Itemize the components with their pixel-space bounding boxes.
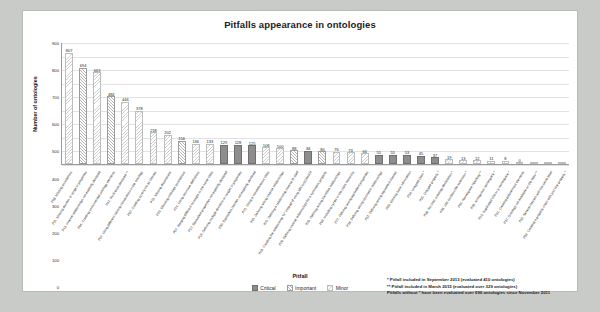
bar-slot[interactable] <box>555 43 569 164</box>
bar[interactable]: 19 <box>445 159 453 164</box>
bar-value-label: 125 <box>249 141 256 146</box>
bar-slot[interactable]: 8 <box>498 43 512 164</box>
bar[interactable]: 694 <box>79 68 87 164</box>
bar[interactable]: 129 <box>220 145 228 164</box>
bar[interactable]: 88 <box>290 150 298 164</box>
plot-area: 0100200300400500600700800900 80769466348… <box>61 43 569 165</box>
bar-value-label: 37 <box>433 153 437 158</box>
legend-item-minor[interactable]: Minor <box>327 285 348 291</box>
bar-slot[interactable]: 128 <box>231 43 245 164</box>
footnotes: * Pitfall included in September 2013 (ev… <box>387 277 579 297</box>
bar[interactable]: 84 <box>304 151 312 164</box>
bar-slot[interactable]: 136 <box>189 43 203 164</box>
bar-slot[interactable]: 807 <box>62 43 76 164</box>
legend-item-critical[interactable]: Critical <box>252 285 276 291</box>
bar[interactable]: 8 <box>502 161 510 164</box>
footnote: Pitfalls without * have been evaluated o… <box>387 290 579 297</box>
bar[interactable]: 218 <box>150 132 158 164</box>
y-axis-title-text: Number of ontologies <box>32 76 38 132</box>
bar[interactable] <box>544 162 552 164</box>
bar-value-label: 53 <box>405 150 409 155</box>
bar[interactable]: 53 <box>403 155 411 164</box>
bar-slot[interactable]: 13 <box>456 43 470 164</box>
legend-label: Critical <box>260 285 275 291</box>
bar[interactable]: 378 <box>135 111 143 164</box>
bar-slot[interactable]: 12 <box>470 43 484 164</box>
bar-value-label: 133 <box>206 139 213 144</box>
bar-slot[interactable]: 100 <box>273 43 287 164</box>
footnote: ** Pitfall included in March 2015 (evalu… <box>387 284 579 291</box>
bar-slot[interactable]: 378 <box>132 43 146 164</box>
bar[interactable]: 66 <box>361 153 369 164</box>
chart-frame: Pitfalls appearance in ontologies Number… <box>22 10 578 292</box>
bar[interactable] <box>558 162 566 164</box>
bar-value-label: 11 <box>489 156 493 161</box>
bar-slot[interactable]: 53 <box>400 43 414 164</box>
bar-slot[interactable]: 694 <box>76 43 90 164</box>
bar[interactable]: 156 <box>178 141 186 164</box>
bar-value-label: 88 <box>292 146 296 151</box>
bar-slot[interactable] <box>527 43 541 164</box>
x-axis-tick-label-text: P03. Creating the relationship "is" inst… <box>258 170 313 255</box>
bar-slot[interactable]: 80 <box>315 43 329 164</box>
bar[interactable]: 202 <box>164 135 172 164</box>
bar-slot[interactable]: 218 <box>146 43 160 164</box>
bar[interactable] <box>530 162 538 164</box>
bar[interactable]: 55 <box>375 155 383 164</box>
bar[interactable]: 663 <box>93 72 101 164</box>
bar[interactable]: 73 <box>347 152 355 164</box>
footnote: * Pitfall included in September 2013 (ev… <box>387 277 579 284</box>
bar[interactable]: 0 <box>516 162 524 164</box>
bar-slot[interactable]: 76 <box>329 43 343 164</box>
bar-slot[interactable]: 108 <box>259 43 273 164</box>
bar-slot[interactable]: 663 <box>90 43 104 164</box>
bar[interactable]: 128 <box>234 145 242 164</box>
bar[interactable]: 807 <box>65 53 73 164</box>
bar[interactable]: 484 <box>107 96 115 164</box>
bar-value-label: 66 <box>362 149 366 154</box>
bar-slot[interactable]: 129 <box>217 43 231 164</box>
bar[interactable]: 446 <box>121 102 129 164</box>
bar[interactable]: 125 <box>248 145 256 164</box>
bar-slot[interactable]: 202 <box>161 43 175 164</box>
y-axis-tick: 700 <box>52 95 59 100</box>
bar-slot[interactable]: 45 <box>414 43 428 164</box>
x-axis-tick-label-text: P09. Missing basic information <box>385 170 412 210</box>
bar[interactable]: 13 <box>459 160 467 164</box>
bar[interactable]: 108 <box>262 147 270 164</box>
bar-slot[interactable]: 484 <box>104 43 118 164</box>
bar[interactable]: 100 <box>276 148 284 164</box>
bar[interactable]: 55 <box>389 155 397 164</box>
bar-slot[interactable]: 19 <box>442 43 456 164</box>
bar[interactable]: 80 <box>318 151 326 164</box>
legend-label: Important <box>295 285 316 291</box>
bar-slot[interactable]: 156 <box>175 43 189 164</box>
bar-slot[interactable]: 73 <box>344 43 358 164</box>
bar-value-label: 694 <box>80 63 87 68</box>
bar[interactable]: 76 <box>333 152 341 164</box>
bar[interactable]: 133 <box>206 144 214 164</box>
bar[interactable]: 45 <box>417 156 425 164</box>
bar-slot[interactable]: 66 <box>358 43 372 164</box>
bar-slot[interactable]: 0 <box>513 43 527 164</box>
bar-slot[interactable]: 84 <box>301 43 315 164</box>
bar-slot[interactable] <box>541 43 555 164</box>
bar[interactable]: 136 <box>192 144 200 164</box>
bar[interactable]: 12 <box>473 160 481 164</box>
x-axis-category-labels: P08. Missing annotationsP11. Missing dom… <box>61 167 569 271</box>
bar[interactable]: 11 <box>487 161 495 164</box>
bar-slot[interactable]: 125 <box>245 43 259 164</box>
bar-value-label: 136 <box>192 139 199 144</box>
bar-slot[interactable]: 55 <box>372 43 386 164</box>
bar-slot[interactable]: 55 <box>386 43 400 164</box>
bar-slot[interactable]: 37 <box>428 43 442 164</box>
bar[interactable]: 37 <box>431 157 439 164</box>
bar-value-label: 663 <box>94 68 101 73</box>
bar-value-label: 128 <box>235 140 242 145</box>
bar-slot[interactable]: 133 <box>203 43 217 164</box>
bar-slot[interactable]: 446 <box>118 43 132 164</box>
bar-slot[interactable]: 11 <box>484 43 498 164</box>
y-axis-tick: 600 <box>52 122 59 127</box>
bar-slot[interactable]: 88 <box>287 43 301 164</box>
legend-item-important[interactable]: Important <box>287 285 317 291</box>
